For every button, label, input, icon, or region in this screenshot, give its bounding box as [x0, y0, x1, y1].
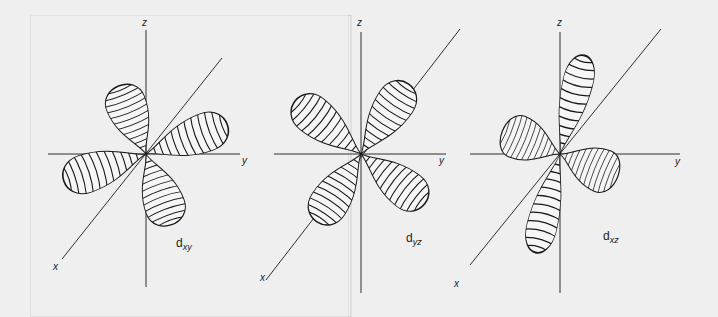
panel-dyz [266, 29, 460, 293]
orbital-label-dxy: dxy [176, 236, 192, 252]
z-axis-label: z [142, 17, 147, 28]
z-axis-label: z [557, 17, 562, 28]
orbital-label-dxz: dxz [603, 229, 619, 245]
panel-dxz [470, 29, 680, 293]
y-axis-label: y [675, 156, 680, 167]
z-axis-label: z [357, 17, 362, 28]
orbital-label-dyz: dyz [406, 231, 422, 247]
y-axis-label: y [242, 155, 247, 166]
lobe [342, 71, 427, 167]
y-axis-label: y [439, 155, 444, 166]
panel-dxy [48, 30, 240, 287]
x-axis [470, 29, 661, 265]
x-axis-label: x [53, 261, 58, 272]
x-axis-label: x [260, 272, 265, 283]
lobe [298, 141, 381, 234]
d-orbitals-figure [0, 0, 718, 317]
x-axis-label: x [454, 278, 459, 289]
